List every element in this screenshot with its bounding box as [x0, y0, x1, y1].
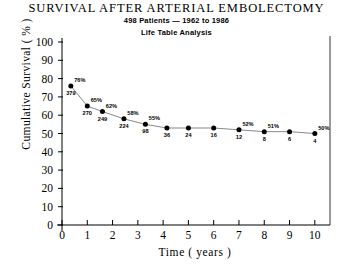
data-point-percent-label: 62% [106, 103, 117, 109]
x-axis-label: Time ( years ) [55, 246, 335, 258]
y-tick-label: 90 [42, 54, 54, 66]
at-risk-count-label: 4 [313, 138, 317, 144]
data-point-percent-label: 50% [318, 125, 329, 131]
x-tick-label: 1 [84, 229, 90, 241]
data-point-percent-label: 52% [242, 121, 253, 127]
y-axis-label: Cumulative Survival ( % ) [20, 0, 32, 174]
at-risk-count-label: 24 [185, 132, 192, 138]
data-point [287, 129, 292, 134]
data-point [121, 116, 126, 121]
plot-area: 0102030405060708090100012345678910 76%37… [0, 0, 353, 266]
x-tick-label: 0 [59, 229, 65, 241]
data-point [186, 126, 191, 131]
at-risk-count-label: 6 [288, 136, 291, 142]
data-point [312, 131, 317, 136]
x-tick-label: 2 [110, 229, 116, 241]
y-tick-label: 0 [47, 219, 53, 231]
at-risk-count-label: 36 [164, 132, 170, 138]
at-risk-count-label: 16 [211, 132, 217, 138]
y-tick-label: 50 [42, 128, 54, 140]
axes-group: 0102030405060708090100012345678910 [36, 36, 330, 241]
at-risk-count-label: 12 [236, 134, 242, 140]
x-tick-label: 3 [135, 229, 141, 241]
at-risk-count-label: 8 [263, 136, 266, 142]
data-point [211, 126, 216, 131]
y-tick-label: 60 [42, 109, 54, 121]
data-point [100, 109, 105, 114]
data-point-percent-label: 76% [74, 77, 85, 83]
data-series-group: 76%37965%27062%24958%22455%9836241652%12… [66, 77, 329, 144]
y-tick-label: 40 [42, 146, 54, 158]
x-tick-label: 7 [236, 229, 242, 241]
x-tick-label: 6 [211, 229, 217, 241]
data-point [85, 104, 90, 109]
data-point [68, 83, 73, 88]
x-tick-label: 10 [309, 229, 321, 241]
data-point-percent-label: 55% [149, 115, 160, 121]
data-point [262, 129, 267, 134]
at-risk-count-label: 224 [119, 123, 129, 129]
data-point [143, 122, 148, 127]
data-point [236, 127, 241, 132]
y-tick-label: 30 [42, 164, 54, 176]
x-tick-label: 5 [186, 229, 192, 241]
x-tick-label: 4 [160, 229, 166, 241]
survival-chart-figure: SURVIVAL AFTER ARTERIAL EMBOLECTOMY 498 … [0, 0, 353, 266]
x-tick-label: 9 [287, 229, 293, 241]
data-point-percent-label: 65% [91, 97, 102, 103]
y-tick-label: 80 [42, 73, 54, 85]
data-point [164, 126, 169, 131]
at-risk-count-label: 270 [83, 110, 92, 116]
y-tick-label: 10 [42, 201, 54, 213]
at-risk-count-label: 379 [66, 90, 75, 96]
data-point-percent-label: 58% [127, 110, 138, 116]
y-tick-label: 20 [42, 182, 54, 194]
at-risk-count-label: 249 [98, 116, 107, 122]
data-point-percent-label: 51% [268, 123, 279, 129]
x-tick-label: 8 [261, 229, 267, 241]
y-tick-label: 100 [36, 36, 54, 48]
y-tick-label: 70 [42, 91, 54, 103]
at-risk-count-label: 98 [142, 128, 148, 134]
